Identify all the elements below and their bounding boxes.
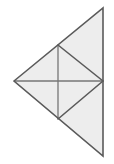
- geometry-figure: [0, 0, 114, 164]
